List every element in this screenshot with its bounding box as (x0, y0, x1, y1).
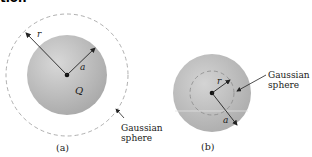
label-a-b: a (223, 115, 228, 125)
gaussian-label-b-line2: sphere (268, 80, 310, 90)
figure-b (173, 54, 266, 132)
caption-a: (a) (56, 142, 69, 153)
label-a-a: a (80, 62, 85, 72)
figure-a (6, 14, 128, 136)
label-r-b: r (217, 76, 221, 86)
gaussian-label-a-line1: Gaussian (121, 123, 163, 133)
gaussian-pointer-a (116, 109, 124, 118)
gaussian-sphere-label-a: Gaussian sphere (121, 123, 163, 143)
gaussian-label-b-line1: Gaussian (268, 70, 310, 80)
caption-b: (b) (201, 141, 215, 152)
gaussian-label-a-line2: sphere (121, 133, 163, 143)
label-Q: Q (75, 85, 83, 96)
gaussian-sphere-label-b: Gaussian sphere (268, 70, 310, 90)
label-r-a: r (37, 29, 41, 39)
